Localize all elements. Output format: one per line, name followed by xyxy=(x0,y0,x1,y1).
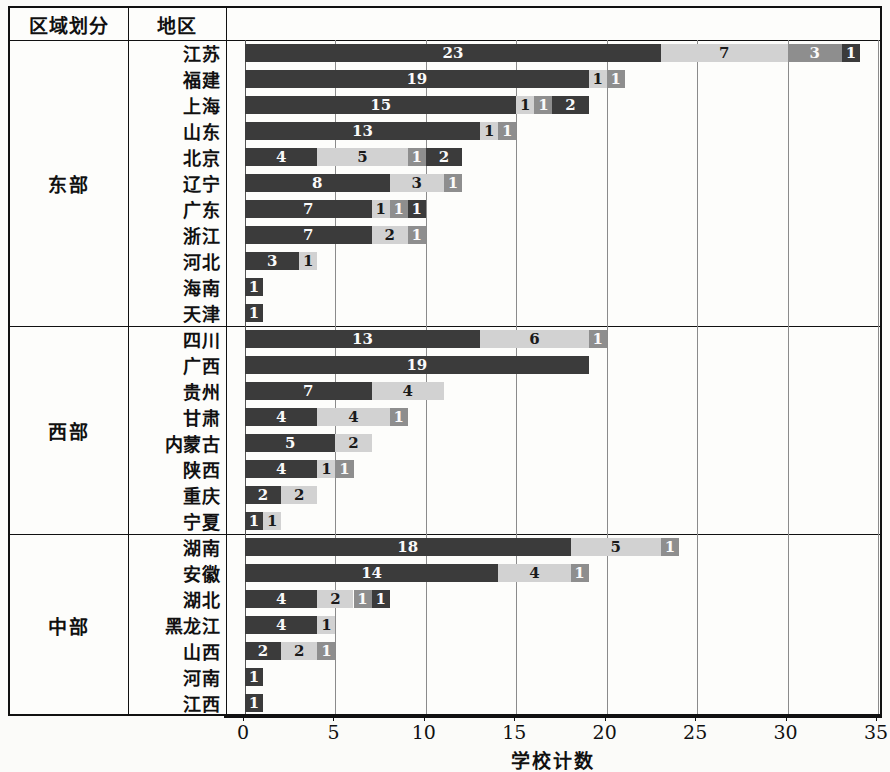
stacked-bar-广西: 19 xyxy=(226,356,880,374)
stacked-bar-浙江: 721 xyxy=(226,226,880,244)
bar-segment: 2 xyxy=(281,486,317,504)
area-name-河北: 河北 xyxy=(128,248,226,274)
region-school-table: 区域划分 地区 东部西部中部 江苏福建上海山东北京辽宁广东浙江河北海南天津四川广… xyxy=(8,6,882,716)
stacked-bar-内蒙古: 52 xyxy=(226,434,880,452)
bar-segment: 15 xyxy=(245,96,516,114)
area-name-湖南: 湖南 xyxy=(128,534,226,560)
area-name-上海: 上海 xyxy=(128,92,226,118)
area-name-宁夏: 宁夏 xyxy=(128,508,226,534)
stacked-bar-宁夏: 11 xyxy=(226,512,880,530)
area-name-天津: 天津 xyxy=(128,300,226,326)
bar-segment: 2 xyxy=(317,590,353,608)
bar-segment: 1 xyxy=(589,70,607,88)
stacked-bar-福建: 1911 xyxy=(226,70,880,88)
bar-segment: 1 xyxy=(498,122,516,140)
bar-segment: 2 xyxy=(335,434,371,452)
bar-segment: 5 xyxy=(317,148,407,166)
header-region-division: 区域划分 xyxy=(10,8,128,40)
bar-segment: 1 xyxy=(354,590,372,608)
x-axis-line xyxy=(224,716,882,718)
gridline-35 xyxy=(878,40,879,714)
bar-segment: 2 xyxy=(245,642,281,660)
bar-segment: 4 xyxy=(245,148,317,166)
bar-segment: 4 xyxy=(245,460,317,478)
area-name-陕西: 陕西 xyxy=(128,456,226,482)
bar-segment: 18 xyxy=(245,538,571,556)
bar-segment: 1 xyxy=(245,668,263,686)
region-group-label: 西部 xyxy=(10,326,128,534)
x-tick-label-15: 15 xyxy=(502,721,526,743)
stacked-bar-山东: 1311 xyxy=(226,122,880,140)
area-name-贵州: 贵州 xyxy=(128,378,226,404)
bar-segment: 1 xyxy=(317,616,335,634)
header-area: 地区 xyxy=(128,8,226,40)
bar-segment: 19 xyxy=(245,70,589,88)
stacked-bar-四川: 1361 xyxy=(226,330,880,348)
gridline-15 xyxy=(516,40,517,714)
bar-segment: 1 xyxy=(263,512,281,530)
x-tick-label-25: 25 xyxy=(683,721,707,743)
gridline-10 xyxy=(426,40,427,714)
x-tick-label-10: 10 xyxy=(412,721,436,743)
bar-segment: 4 xyxy=(317,408,389,426)
bar-segment: 1 xyxy=(372,590,390,608)
bar-segment: 4 xyxy=(245,616,317,634)
gridline-0 xyxy=(245,40,246,714)
gridline-25 xyxy=(697,40,698,714)
stacked-bar-贵州: 74 xyxy=(226,382,880,400)
bar-segment: 1 xyxy=(842,44,860,62)
bar-segment: 1 xyxy=(372,200,390,218)
bar-segment: 1 xyxy=(390,200,408,218)
bar-segment: 5 xyxy=(245,434,335,452)
area-name-广西: 广西 xyxy=(128,352,226,378)
stacked-bar-河南: 1 xyxy=(226,668,880,686)
bar-segment: 1 xyxy=(335,460,353,478)
area-name-山西: 山西 xyxy=(128,638,226,664)
stacked-bar-重庆: 22 xyxy=(226,486,880,504)
x-tick-label-5: 5 xyxy=(327,721,339,743)
chart-sheet: 区域划分 地区 东部西部中部 江苏福建上海山东北京辽宁广东浙江河北海南天津四川广… xyxy=(8,6,882,716)
bar-segment: 1 xyxy=(245,694,263,712)
bar-segment: 1 xyxy=(245,512,263,530)
bar-segment: 3 xyxy=(245,252,299,270)
stacked-bar-甘肃: 441 xyxy=(226,408,880,426)
area-name-广东: 广东 xyxy=(128,196,226,222)
bar-segment: 1 xyxy=(589,330,607,348)
gridline-20 xyxy=(607,40,608,714)
stacked-bar-湖南: 1851 xyxy=(226,538,880,556)
stacked-bar-陕西: 411 xyxy=(226,460,880,478)
bar-segment: 1 xyxy=(245,304,263,322)
bar-segment: 8 xyxy=(245,174,390,192)
area-name-黑龙江: 黑龙江 xyxy=(128,612,226,638)
bar-segment: 1 xyxy=(317,460,335,478)
area-name-河南: 河南 xyxy=(128,664,226,690)
bar-segment: 1 xyxy=(317,642,335,660)
area-name-山东: 山东 xyxy=(128,118,226,144)
bar-segment: 14 xyxy=(245,564,498,582)
bar-segment: 1 xyxy=(245,278,263,296)
stacked-bar-江苏: 23731 xyxy=(226,44,880,62)
bar-segment: 4 xyxy=(372,382,444,400)
bar-segment: 1 xyxy=(534,96,552,114)
stacked-bar-海南: 1 xyxy=(226,278,880,296)
bar-segment: 1 xyxy=(661,538,679,556)
bar-segment: 1 xyxy=(516,96,534,114)
bar-segment: 1 xyxy=(299,252,317,270)
stacked-bar-山西: 221 xyxy=(226,642,880,660)
bar-segment: 4 xyxy=(245,408,317,426)
bar-segment: 2 xyxy=(245,486,281,504)
area-name-浙江: 浙江 xyxy=(128,222,226,248)
bar-segment: 4 xyxy=(245,590,317,608)
bar-segment: 7 xyxy=(245,226,372,244)
bar-segment: 13 xyxy=(245,122,480,140)
bar-segment: 3 xyxy=(390,174,444,192)
region-group-label: 东部 xyxy=(10,40,128,326)
stacked-bar-天津: 1 xyxy=(226,304,880,322)
stacked-bar-河北: 31 xyxy=(226,252,880,270)
stacked-bar-辽宁: 831 xyxy=(226,174,880,192)
area-name-北京: 北京 xyxy=(128,144,226,170)
plot-area: 2373119111511213114512831711172131111361… xyxy=(226,40,880,714)
bar-segment: 5 xyxy=(571,538,661,556)
bar-segment: 2 xyxy=(281,642,317,660)
area-name-湖北: 湖北 xyxy=(128,586,226,612)
